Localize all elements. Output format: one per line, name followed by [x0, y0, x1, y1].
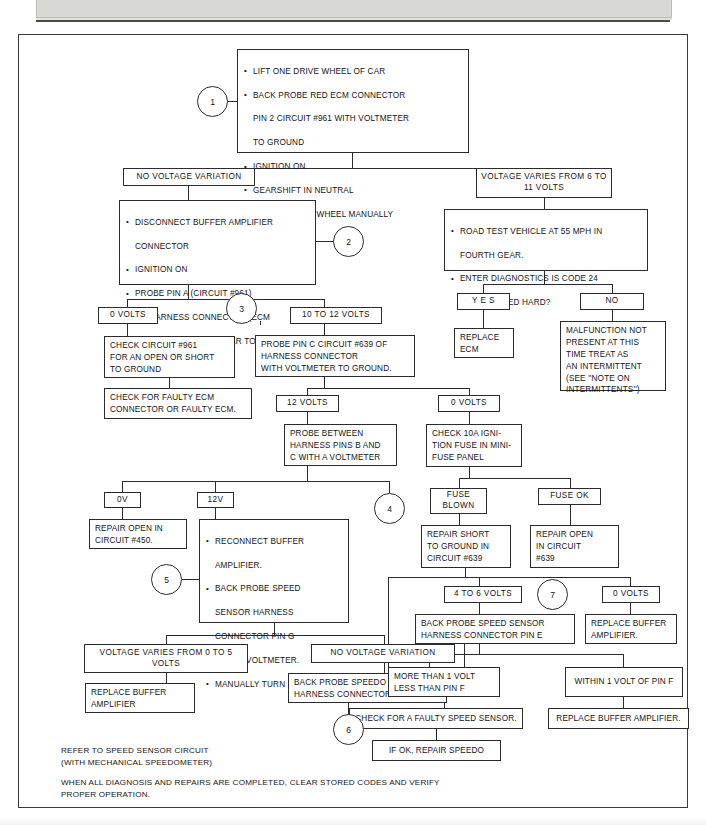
connector-probebtwn-split: [122, 481, 390, 482]
node-within-1-volt: WITHIN 1 VOLT OF PIN F: [565, 667, 683, 697]
step-marker-6[interactable]: 6: [333, 714, 364, 745]
connector-to-m4: [389, 481, 390, 493]
step1-cont-1: PIN 2 CIRCUIT #961 WITH VOLTMETER: [244, 113, 462, 125]
node-replace-buffer-amplifier-1: REPLACE BUFFER AMPLIFIER: [85, 683, 195, 713]
chip-yes: Y E S: [457, 293, 510, 310]
node-check-faulty-ecm: CHECK FOR FAULTY ECM CONNECTOR OR FAULTY…: [104, 388, 252, 419]
node-check-faulty-speed-sensor: CHECK FOR A FAULTY SPEED SENSOR.: [349, 708, 523, 729]
node-replace-ecm: REPLACE ECM: [454, 328, 514, 358]
chip-no-voltage-variation-2: NO VOLTAGE VARIATION: [311, 644, 455, 663]
node-step-5: RECONNECT BUFFER AMPLIFIER. BACK PROBE S…: [199, 519, 349, 623]
roadtest-bullet-2: ENTER DIAGNOSTICS IS CODE 24: [451, 273, 641, 285]
connector-probec-split: [307, 388, 470, 389]
step5-bullet-2: BACK PROBE SPEED: [206, 583, 342, 595]
node-step-2: DISCONNECT BUFFER AMPLIFIER CONNECTOR IG…: [119, 200, 316, 285]
step-marker-1[interactable]: 1: [197, 86, 228, 117]
step1-cont-2: TO GROUND: [244, 137, 462, 149]
step-marker-5[interactable]: 5: [151, 564, 182, 595]
chip-0-volts-b: 0 VOLTS: [438, 395, 500, 412]
header-divider: [36, 20, 670, 22]
roadtest-cont-1: FOURTH GEAR.: [451, 250, 641, 262]
connector-m5-step5: [182, 579, 200, 580]
chip-fuse-ok: FUSE OK: [538, 488, 601, 505]
note-verify-operation: WHEN ALL DIAGNOSIS AND REPAIRS ARE COMPL…: [61, 777, 661, 801]
chip-no: NO: [580, 293, 644, 310]
step-marker-7[interactable]: 7: [537, 579, 568, 610]
header-band: (FOR VEHICLES WITHOUT DIGITAL CLUSTER): [36, 0, 672, 18]
node-repair-open-639: REPAIR OPEN IN CIRCUIT #639: [530, 525, 619, 568]
step-marker-4[interactable]: 4: [374, 493, 405, 524]
chip-no-voltage-variation-1: NO VOLTAGE VARIATION: [123, 168, 255, 186]
node-probe-pin-c: PROBE PIN C CIRCUIT #639 OF HARNESS CONN…: [255, 335, 415, 377]
chip-12v: 12V: [197, 492, 234, 508]
scan-edge-shading: [0, 817, 706, 825]
chip-12-volts: 12 VOLTS: [276, 395, 339, 412]
node-check-circuit-961: CHECK CIRCUIT #961 FOR AN OPEN OR SHORT …: [104, 336, 235, 378]
chip-voltage-varies-0-5: VOLTAGE VARIES FROM 0 TO 5 VOLTS: [84, 644, 248, 673]
connector-to-within1v: [623, 654, 624, 668]
node-check-10a-fuse: CHECK 10A IGNI- TION FUSE IN MINI- FUSE …: [426, 424, 522, 467]
diagram-frame: 1 LIFT ONE DRIVE WHEEL OF CAR BACK PROBE…: [18, 34, 688, 808]
node-back-probe-pin-e: BACK PROBE SPEED SENSOR HARNESS CONNECTO…: [415, 614, 575, 644]
node-malfunction-not-present: MALFUNCTION NOT PRESENT AT THIS TIME TRE…: [560, 321, 666, 391]
node-probe-between: PROBE BETWEEN HARNESS PINS B AND C WITH …: [284, 424, 397, 466]
step1-bullet-1: LIFT ONE DRIVE WHEEL OF CAR: [244, 66, 462, 78]
connector-novolt1-step2: [188, 186, 189, 201]
node-repair-open-450: REPAIR OPEN IN CIRCUIT #450.: [89, 519, 187, 549]
chip-0-volts-c: 0 VOLTS: [602, 586, 660, 603]
chip-0-volts-a: 0 VOLTS: [98, 307, 158, 324]
step2-bullet-2: IGNITION ON: [126, 264, 309, 276]
connector-probebtwn-down: [307, 466, 308, 482]
connector-fuseok-down: [570, 505, 571, 526]
step-marker-3[interactable]: 3: [226, 293, 257, 324]
step5-cont-3: CONNECTOR PIN G: [206, 631, 342, 643]
connector-pine-split: [429, 654, 624, 655]
step2-cont-1: CONNECTOR: [126, 241, 309, 253]
node-step-1: LIFT ONE DRIVE WHEEL OF CAR BACK PROBE R…: [237, 49, 469, 153]
node-repair-short: REPAIR SHORT TO GROUND IN CIRCUIT #639: [421, 525, 511, 568]
chip-fuse-blown: FUSE BLOWN: [430, 488, 487, 514]
note-refer-speed-sensor: REFER TO SPEED SENSOR CIRCUIT (WITH MECH…: [61, 745, 381, 769]
step1-bullet-3: IGNITION ON: [244, 161, 462, 173]
step5-cont-2: SENSOR HARNESS: [206, 607, 342, 619]
node-if-ok-repair-speedo: IF OK, REPAIR SPEEDO: [372, 740, 501, 761]
chip-0v: 0V: [104, 492, 141, 508]
step2-bullet-3: PROBE PIN A (CIRCUIT #961): [126, 288, 309, 300]
node-road-test: ROAD TEST VEHICLE AT 55 MPH IN FOURTH GE…: [444, 209, 648, 271]
step1-bullet-4: GEARSHIFT IN NEUTRAL: [244, 185, 462, 197]
diagram-canvas: 1 LIFT ONE DRIVE WHEEL OF CAR BACK PROBE…: [19, 35, 687, 807]
diagnostic-flowchart-page: (FOR VEHICLES WITHOUT DIGITAL CLUSTER) 1…: [0, 0, 706, 825]
step5-cont-1: AMPLIFIER.: [206, 560, 342, 572]
step5-bullet-1: RECONNECT BUFFER: [206, 536, 342, 548]
chip-10-to-12-volts: 10 TO 12 VOLTS: [290, 307, 382, 324]
step1-bullet-2: BACK PROBE RED ECM CONNECTOR: [244, 90, 462, 102]
node-replace-buffer-amplifier-3: REPLACE BUFFER AMPLIFIER.: [548, 708, 689, 729]
step2-bullet-1: DISCONNECT BUFFER AMPLIFIER: [126, 217, 309, 229]
node-more-than-1-volt: MORE THAN 1 VOLT LESS THAN PIN F: [388, 667, 500, 697]
roadtest-bullet-1: ROAD TEST VEHICLE AT 55 MPH IN: [451, 226, 641, 238]
step-marker-2[interactable]: 2: [333, 226, 364, 257]
chip-4-to-6-volts: 4 TO 6 VOLTS: [444, 586, 522, 603]
connector-fuse-split: [459, 478, 571, 479]
chip-voltage-varies-6-11: VOLTAGE VARIES FROM 6 TO 11 VOLTS: [476, 168, 612, 198]
connector-cluster-split: [388, 577, 631, 578]
node-replace-buffer-amplifier-2: REPLACE BUFFER AMPLIFIER.: [585, 614, 677, 644]
